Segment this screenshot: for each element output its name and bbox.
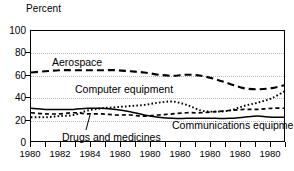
x-tick-label-6: 1980: [199, 148, 220, 159]
x-tick-label-2: 1984: [79, 148, 100, 159]
x-tick-mark-1981: [45, 142, 46, 147]
y-tick-label-60: 60: [0, 69, 26, 80]
y-tick-label-40: 40: [0, 92, 26, 103]
x-tick-mark-1996: [270, 142, 271, 147]
x-tick-mark-1994: [240, 142, 241, 147]
x-tick-label-3: 1980: [109, 148, 130, 159]
x-tick-mark-1989: [165, 142, 166, 147]
x-tick-mark-1980: [30, 142, 31, 147]
x-tick-label-0: 1980: [19, 148, 40, 159]
y-tick-label-80: 80: [0, 47, 26, 58]
x-tick-mark-1997: [285, 142, 286, 147]
x-tick-mark-1992: [210, 142, 211, 147]
x-tick-mark-1990: [180, 142, 181, 147]
x-tick-mark-1982: [60, 142, 61, 147]
x-tick-label-8: 1980: [259, 148, 280, 159]
x-tick-label-4: 1980: [139, 148, 160, 159]
y-axis-title: Percent: [26, 3, 61, 14]
y-tick-label-100: 100: [0, 25, 26, 36]
y-tick-label-20: 20: [0, 114, 26, 125]
series-label-communications-equipment: Communications equipment: [172, 119, 294, 131]
x-tick-label-7: 1980: [229, 148, 250, 159]
chart-container: Percent 020406080100 1980198219841980198…: [0, 0, 294, 171]
x-tick-mark-1991: [195, 142, 196, 147]
x-tick-label-5: 1980: [169, 148, 190, 159]
x-tick-mark-1993: [225, 142, 226, 147]
series-label-computer-equipment: Computer equipment: [75, 83, 173, 95]
series-label-drugs-and-medicines: Drugs and medicines: [62, 131, 161, 143]
x-tick-mark-1995: [255, 142, 256, 147]
x-tick-label-1: 1982: [49, 148, 70, 159]
series-label-aerospace: Aerospace: [52, 56, 102, 68]
y-tick-label-0: 0: [0, 137, 26, 148]
